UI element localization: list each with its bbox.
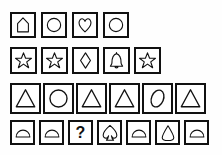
circle-icon [47, 87, 70, 110]
cell-1-3-bell[interactable] [103, 47, 130, 74]
cell-0-3-circle[interactable] [103, 12, 129, 38]
puzzle-row-3: ? [10, 120, 213, 145]
cell-0-1-circle[interactable] [41, 12, 67, 38]
puzzle-row-2 [10, 83, 208, 114]
cell-1-0-star[interactable] [10, 47, 37, 74]
cell-2-4-ellipse[interactable] [142, 83, 173, 114]
cell-3-1-dome[interactable] [39, 120, 64, 145]
triangle-icon [179, 87, 202, 110]
dome-icon [43, 124, 61, 142]
bell-icon [107, 51, 126, 70]
cell-3-0-dome[interactable] [10, 120, 35, 145]
cell-0-0-house[interactable] [10, 12, 36, 38]
diamond-icon [76, 51, 95, 70]
cell-3-5-teardrop[interactable] [155, 120, 180, 145]
cell-1-1-star[interactable] [41, 47, 68, 74]
star-icon [45, 51, 64, 70]
ellipse-icon [146, 87, 169, 110]
cell-3-2-question-mark[interactable]: ? [68, 120, 93, 145]
triangle-icon [80, 87, 103, 110]
spade-icon [101, 124, 119, 142]
cell-3-4-dome[interactable] [126, 120, 151, 145]
cell-2-0-triangle[interactable] [10, 83, 41, 114]
cell-0-2-heart[interactable] [72, 12, 98, 38]
cell-2-1-circle[interactable] [43, 83, 74, 114]
circle-icon [107, 16, 125, 34]
shape-matrix-puzzle: ? [0, 0, 222, 155]
star-icon [14, 51, 33, 70]
puzzle-row-1 [10, 47, 165, 74]
cell-2-3-triangle[interactable] [109, 83, 140, 114]
house-icon [14, 16, 32, 34]
cell-2-5-triangle[interactable] [175, 83, 206, 114]
triangle-icon [14, 87, 37, 110]
heart-icon [76, 16, 94, 34]
teardrop-icon [159, 124, 177, 142]
circle-icon [45, 16, 63, 34]
cell-1-4-star[interactable] [134, 47, 161, 74]
cell-3-3-spade[interactable] [97, 120, 122, 145]
star-icon [138, 51, 157, 70]
dome-icon [130, 124, 148, 142]
dome-icon [188, 124, 206, 142]
puzzle-row-0 [10, 12, 134, 38]
cell-1-2-diamond[interactable] [72, 47, 99, 74]
dome-icon [14, 124, 32, 142]
cell-2-2-triangle[interactable] [76, 83, 107, 114]
triangle-icon [113, 87, 136, 110]
missing-cell-question-icon: ? [76, 125, 86, 141]
cell-3-6-dome[interactable] [184, 120, 209, 145]
